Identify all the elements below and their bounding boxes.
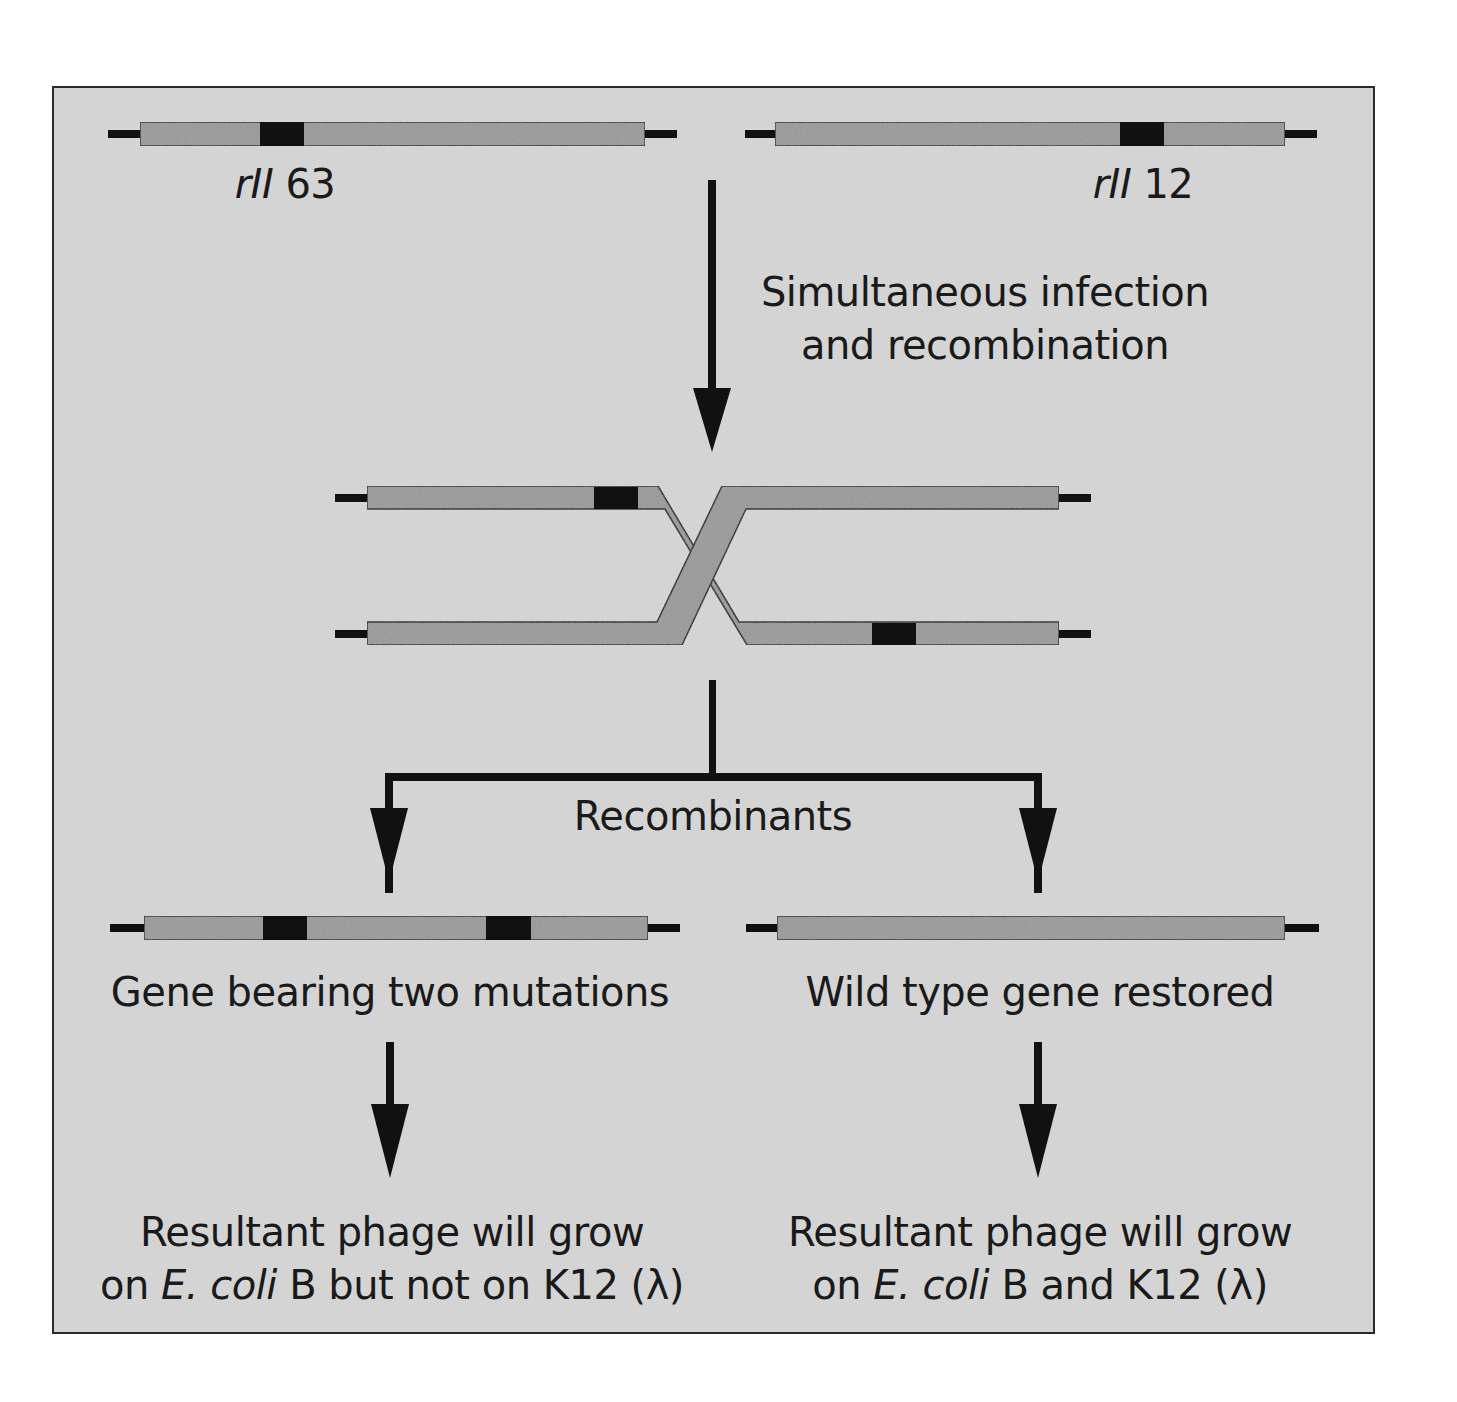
outcome-line1: Resultant phage will grow [62,1206,722,1259]
parent-gene-rII63 [108,122,677,146]
crossover-diagram [335,486,1091,645]
gene-name: rII [235,161,274,207]
mutation-site-2 [486,916,531,940]
branch-arrows [370,680,1057,893]
mutation-site-rII63 [260,122,304,146]
infection-label: Simultaneous infection and recombination [735,266,1235,372]
infection-label-line1: Simultaneous infection [735,266,1235,319]
arrow-down-icon [1019,808,1057,882]
double-mutant-outcome: Resultant phage will grow on E. coli B b… [62,1206,722,1312]
recombinant-gene-wild-type [746,916,1319,940]
allele-number: 63 [285,161,335,207]
species-name: E. coli [873,1262,989,1308]
recombinant-gene-double-mutant [110,916,680,940]
outcome-line2: on E. coli B but not on K12 (λ) [62,1259,722,1312]
mutation-site-1 [263,916,307,940]
allele-number: 12 [1143,161,1193,207]
parent-label-rII63: rII 63 [200,158,370,211]
infection-label-line2: and recombination [735,319,1235,372]
arrow-down-icon [370,808,408,882]
mutation-site-rII63 [594,487,638,509]
parent-gene-rII12 [745,122,1317,146]
wild-type-description: Wild type gene restored [740,966,1340,1019]
gene-name: rII [1093,161,1132,207]
outcome-line1: Resultant phage will grow [745,1206,1335,1259]
parent-label-rII12: rII 12 [1058,158,1228,211]
mutation-site-rII12 [872,623,916,645]
species-name: E. coli [161,1262,277,1308]
double-mutant-description: Gene bearing two mutations [70,966,710,1019]
arrow-down-icon [693,180,731,452]
mutation-site-rII12 [1120,122,1164,146]
arrow-down-icon [371,1042,409,1178]
outcome-line2: on E. coli B and K12 (λ) [745,1259,1335,1312]
recombinants-label: Recombinants [563,790,863,843]
arrow-down-icon [1019,1042,1057,1178]
wild-type-outcome: Resultant phage will grow on E. coli B a… [745,1206,1335,1312]
